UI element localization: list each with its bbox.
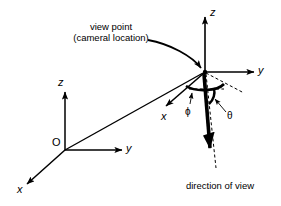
view-point-caption: view point (cameral location) <box>62 22 160 43</box>
world-z-axis-label: z <box>58 76 64 88</box>
world-x-axis-label: x <box>17 183 23 195</box>
diagram-canvas: view point (cameral location) direction … <box>0 0 281 206</box>
camera-coordinate-frame <box>166 17 254 106</box>
world-y-axis-label: y <box>126 142 132 154</box>
camera-z-axis-label: z <box>210 6 216 18</box>
theta-leader-arrow <box>215 99 226 112</box>
view-point-caption-line2: (cameral location) <box>62 33 160 44</box>
camera-y-axis-label: y <box>258 64 264 76</box>
phi-leader-arrow <box>190 93 192 104</box>
callout-curved-arrow <box>148 40 201 68</box>
world-origin-label: O <box>52 136 61 148</box>
direction-of-view-caption: direction of view <box>172 181 268 192</box>
polar-angle-label: θ <box>227 110 233 121</box>
world-coordinate-frame <box>27 92 122 184</box>
azimuth-angle-label: ϕ <box>185 106 191 117</box>
position-vector-line <box>65 73 203 150</box>
world-x-axis-line <box>27 150 65 184</box>
camera-x-axis-label: x <box>161 110 167 122</box>
